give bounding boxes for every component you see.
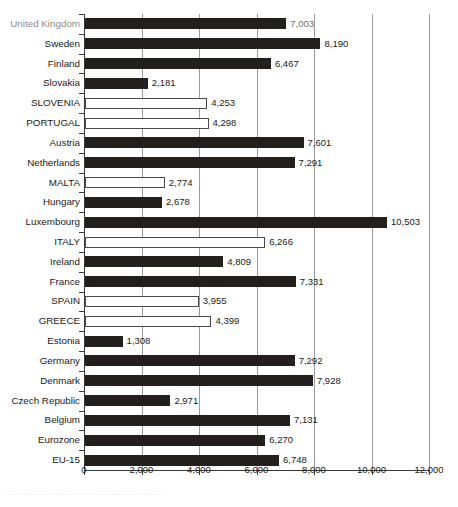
bar <box>85 78 148 89</box>
y-axis-tick <box>79 133 84 134</box>
bar <box>85 316 211 327</box>
category-label: SPAIN <box>51 295 80 306</box>
y-axis-tick <box>79 93 84 94</box>
category-label: Luxembourg <box>26 216 80 227</box>
category-label: Hungary <box>43 196 80 207</box>
bar <box>85 217 387 228</box>
y-axis-tick <box>79 391 84 392</box>
bar-value-label: 7,131 <box>294 414 318 425</box>
plot-area <box>84 14 429 470</box>
bar <box>85 435 265 446</box>
bar <box>85 98 207 109</box>
horizontal-bar-chart: United KingdomSwedenFinlandSlovakiaSLOVE… <box>0 0 458 507</box>
y-axis-tick <box>79 311 84 312</box>
y-axis-tick <box>79 212 84 213</box>
bar <box>85 336 123 347</box>
gridline <box>372 14 373 470</box>
gridline <box>314 14 315 470</box>
bar <box>85 137 304 148</box>
y-axis-tick <box>79 54 84 55</box>
bar-value-label: 7,928 <box>317 375 341 386</box>
category-label: Austria <box>50 137 81 148</box>
bar <box>85 276 296 287</box>
y-axis-tick <box>79 292 84 293</box>
bar <box>85 118 209 129</box>
y-axis-tick <box>79 331 84 332</box>
bar-value-label: 6,266 <box>269 236 293 247</box>
bar-value-label: 7,292 <box>299 355 323 366</box>
category-label: Sweden <box>45 38 80 49</box>
bar <box>85 58 271 69</box>
bar-value-label: 2,678 <box>166 196 190 207</box>
category-label: Eurozone <box>38 434 80 445</box>
bar-value-label: 7,003 <box>290 18 314 29</box>
y-axis-tick <box>79 450 84 451</box>
bar <box>85 157 295 168</box>
category-label: Slovakia <box>43 77 80 88</box>
bar-value-label: 2,971 <box>174 395 198 406</box>
category-label: SLOVENIA <box>31 97 80 108</box>
bar <box>85 296 199 307</box>
bar <box>85 237 265 248</box>
bar <box>85 177 165 188</box>
category-label: France <box>50 276 81 287</box>
bar-value-label: 4,809 <box>227 256 251 267</box>
x-axis-tick-label: 4,000 <box>187 464 211 475</box>
category-label: Germany <box>40 355 80 366</box>
category-label: Denmark <box>40 375 80 386</box>
bar-value-label: 7,291 <box>299 157 323 168</box>
bar <box>85 18 286 29</box>
bar-value-label: 1,308 <box>127 335 151 346</box>
category-label: ITALY <box>54 236 80 247</box>
bar <box>85 375 313 386</box>
footer-caption: ........................................… <box>0 489 458 507</box>
scan-fade-top <box>0 0 458 12</box>
bar <box>85 395 170 406</box>
y-axis-tick <box>79 252 84 253</box>
x-axis-tick-label: 2,000 <box>130 464 154 475</box>
y-axis-tick <box>79 351 84 352</box>
y-axis-tick <box>79 411 84 412</box>
category-label: Czech Republic <box>11 395 80 406</box>
bar-value-label: 10,503 <box>391 216 420 227</box>
category-label: MALTA <box>49 177 80 188</box>
y-axis-tick <box>79 192 84 193</box>
bar-value-label: 4,399 <box>215 315 239 326</box>
category-label: Finland <box>48 58 80 69</box>
bar-value-label: 7,601 <box>308 137 332 148</box>
y-axis-tick <box>79 34 84 35</box>
gridline <box>429 14 430 470</box>
y-axis-tick <box>79 173 84 174</box>
bar <box>85 355 295 366</box>
x-axis-tick-label: 12,000 <box>414 464 443 475</box>
y-axis-tick <box>79 371 84 372</box>
y-axis-tick <box>79 113 84 114</box>
bar-value-label: 4,253 <box>211 97 235 108</box>
y-axis-tick <box>79 430 84 431</box>
y-axis-tick <box>79 153 84 154</box>
category-label: PORTUGAL <box>26 117 80 128</box>
x-axis-tick-label: 0 <box>81 464 86 475</box>
category-label: Ireland <box>50 256 80 267</box>
bar <box>85 415 290 426</box>
bar-value-label: 6,270 <box>269 434 293 445</box>
bar-value-label: 8,190 <box>324 38 348 49</box>
bar-value-label: 4,298 <box>213 117 237 128</box>
bar <box>85 197 162 208</box>
category-label: EU-15 <box>52 454 80 465</box>
bar-value-label: 2,181 <box>152 77 176 88</box>
x-axis-tick-label: 8,000 <box>302 464 326 475</box>
y-axis-tick <box>79 232 84 233</box>
category-label: GREECE <box>39 315 80 326</box>
y-axis-tick <box>79 14 84 15</box>
bar-value-label: 6,467 <box>275 58 299 69</box>
bar-value-label: 7,331 <box>300 276 324 287</box>
category-label: United Kingdom <box>10 18 80 29</box>
category-label: Belgium <box>45 414 80 425</box>
y-axis-tick <box>79 73 84 74</box>
category-label: Estonia <box>47 335 80 346</box>
bar <box>85 256 223 267</box>
y-axis-tick <box>79 272 84 273</box>
bar-value-label: 2,774 <box>169 177 193 188</box>
bar-value-label: 3,955 <box>203 295 227 306</box>
